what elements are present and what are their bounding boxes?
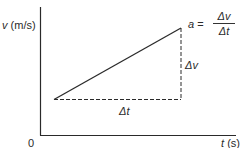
fraction-numerator: Δv — [217, 11, 232, 23]
acceleration-symbol: a — [188, 18, 194, 30]
x-axis-label: t (s) — [221, 138, 240, 148]
x-axis-var: t — [221, 137, 224, 148]
equals-sign: = — [197, 18, 203, 30]
x-axis-unit: (s) — [227, 137, 240, 148]
origin-label: 0 — [28, 138, 34, 148]
equation-lhs: a = — [188, 19, 204, 30]
velocity-line — [54, 28, 181, 100]
y-axis-unit: (m/s) — [11, 19, 36, 31]
graph-canvas — [0, 0, 245, 148]
y-axis-var: v — [2, 19, 8, 31]
equation-fraction: Δv Δt — [213, 11, 235, 37]
delta-v-label: Δv — [185, 60, 198, 71]
delta-t-label: Δt — [119, 106, 129, 117]
y-axis-label: v (m/s) — [2, 20, 36, 31]
fraction-denominator: Δt — [219, 24, 229, 37]
